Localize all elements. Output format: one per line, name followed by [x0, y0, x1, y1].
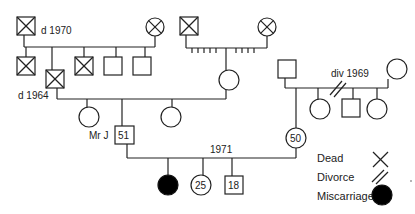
paternal-grandfather [17, 17, 35, 35]
wife-father [278, 60, 296, 78]
wife-sister-2 [367, 99, 387, 119]
paternal-grandmother [146, 18, 164, 36]
uncle-deceased-1 [17, 57, 35, 75]
pedigree-chart: d 1970 d 1964 [0, 0, 415, 214]
daughter-age: 25 [195, 180, 207, 191]
divorce-icon [372, 170, 388, 184]
divorce-label: div 1969 [331, 68, 369, 79]
marriage-year: 1971 [210, 144, 233, 155]
unknown-siblings-ticks [192, 48, 254, 53]
uncle-deceased-2 [75, 57, 93, 75]
wife-mother [387, 59, 407, 79]
sister-2 [161, 107, 181, 127]
father-death-label: d 1964 [18, 90, 49, 101]
wife-brother [342, 99, 360, 117]
wife-age: 50 [290, 133, 302, 144]
wife-sister-1 [310, 99, 330, 119]
proband-label: Mr J [89, 130, 108, 141]
uncle-4 [133, 57, 151, 75]
maternal-grandfather [180, 17, 198, 35]
maternal-grandmother [258, 18, 276, 36]
uncle-3 [104, 57, 122, 75]
grandfather-death-label: d 1970 [41, 25, 72, 36]
father-deceased [46, 70, 64, 88]
sister-1 [79, 107, 99, 127]
legend: Dead Divorce Miscarriage [317, 152, 412, 205]
legend-miscarriage-label: Miscarriage [317, 190, 374, 202]
miscarriage [158, 175, 178, 195]
proband-age: 51 [118, 130, 130, 141]
legend-divorce-label: Divorce [317, 171, 354, 183]
miscarriage-icon [372, 185, 392, 205]
legend-dead-label: Dead [317, 152, 343, 164]
son-age: 18 [228, 180, 240, 191]
mother [219, 70, 239, 90]
dead-icon [373, 152, 388, 167]
divorce-marker [330, 81, 346, 97]
